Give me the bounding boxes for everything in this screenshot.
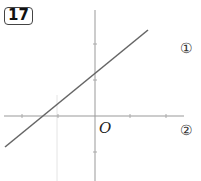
choice-1-label: ① (180, 40, 193, 56)
coordinate-plot (0, 0, 201, 181)
origin-label: O (99, 119, 111, 137)
graph-line (5, 30, 148, 147)
choice-2-label: ② (180, 122, 193, 138)
